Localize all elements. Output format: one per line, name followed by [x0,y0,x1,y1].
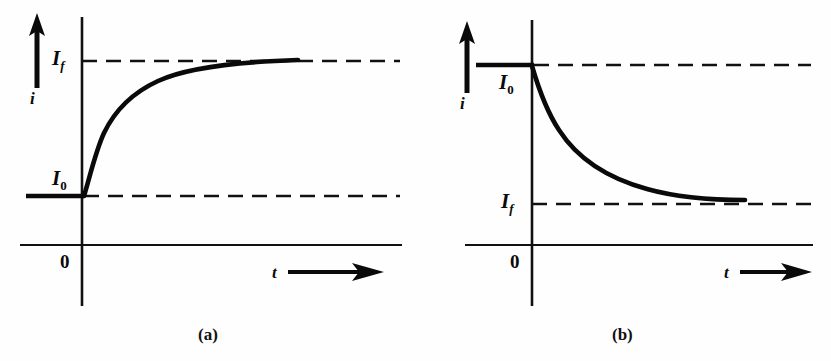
panel-a: i If I0 0 t (a) [0,0,420,361]
y-axis-label-i: i [460,95,465,112]
y-axis-label-i: i [30,90,35,107]
curve-decaying-exponential [532,66,745,200]
panel-b: i I0 If 0 t (b) [411,0,831,361]
i-axis-arrow-icon [459,21,475,93]
origin-label: 0 [60,252,70,271]
i-axis-arrow-icon [29,13,45,88]
level-label-i0: I0 [52,168,67,192]
panel-b-graph [411,0,831,361]
level-label-i0: I0 [499,72,514,96]
origin-label: 0 [510,252,520,271]
curve-rising-exponential [84,60,298,196]
panel-caption-a: (a) [198,326,218,343]
t-axis-arrow-icon [288,263,384,281]
level-label-if: If [52,48,65,72]
level-label-if: If [501,191,514,215]
t-axis-arrow-icon [740,263,812,281]
panel-caption-b: (b) [612,326,633,343]
x-axis-label-t: t [724,264,729,281]
figure-root: i If I0 0 t (a) [0,0,831,361]
x-axis-label-t: t [272,264,277,281]
